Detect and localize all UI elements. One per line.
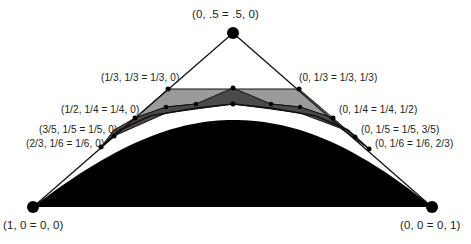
label-bottom-right-vertex: (0, 0 = 0, 1): [400, 219, 460, 231]
top-vertex-dot: [227, 27, 239, 39]
label-top-vertex: (0, .5 = .5, 0): [192, 8, 259, 20]
label-left-point-3: (3/5, 1/5 = 1/5, 0): [39, 124, 117, 135]
simplex-diagram: [0, 0, 471, 244]
bottom-left-vertex-dot: [27, 201, 39, 213]
label-left-point-2: (1/2, 1/4 = 1/4, 0): [61, 104, 139, 115]
label-left-point-1: (1/3, 1/3 = 1/3, 0): [101, 72, 179, 83]
label-left-point-4: (2/3, 1/6 = 1/6, 0): [26, 138, 104, 149]
bottom-right-vertex-dot: [426, 201, 438, 213]
label-right-point-2: (0, 1/4 = 1/4, 1/2): [339, 104, 417, 115]
label-right-point-1: (0, 1/3 = 1/3, 1/3): [299, 72, 377, 83]
label-right-point-4: (0, 1/6 = 1/6, 2/3): [375, 138, 453, 149]
label-right-point-3: (0, 1/5 = 1/5, 3/5): [361, 124, 439, 135]
label-bottom-left-vertex: (1, 0 = 0, 0): [3, 219, 63, 231]
